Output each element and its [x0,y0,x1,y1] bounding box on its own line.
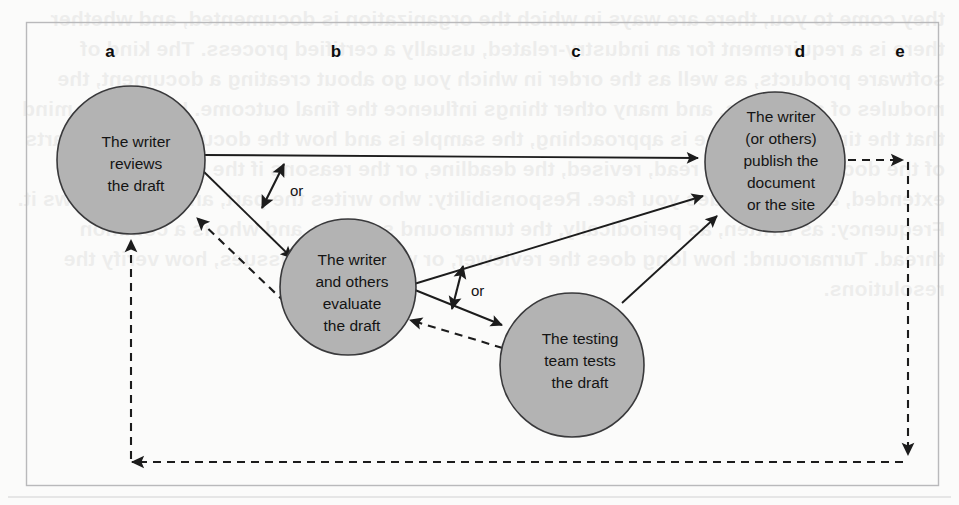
column-label-c: c [571,42,580,61]
column-label-b: b [331,42,341,61]
node-a-line-2: reviews [110,155,163,172]
column-label-a: a [105,42,115,61]
node-c-line-3: the draft [552,374,610,391]
node-testing-team-tests-draft[interactable]: The testing team tests the draft [500,293,644,437]
or-label-b-branch: or [471,282,484,299]
figure-page: they come to you, there are ways in whic… [0,0,959,505]
node-b-line-3: evaluate [323,295,382,312]
edge-a-to-d-publish [203,155,698,158]
node-writer-and-others-evaluate-draft[interactable]: The writer and others evaluate the draft [280,219,416,355]
node-b-line-2: and others [315,273,388,290]
node-d-line-4: document [747,174,816,191]
figure-frame [27,23,939,486]
node-a-line-1: The writer [102,133,171,150]
node-c-line-2: team tests [544,352,616,369]
column-label-d: d [795,42,805,61]
edge-c-to-d-publish [622,216,717,303]
or-label-a-branch: or [290,182,303,199]
process-flow-diagram: a b c d e The writer reviews the draft T… [0,0,959,505]
edge-b-to-c-test [415,290,502,325]
node-writer-or-others-publish[interactable]: The writer (or others) publish the docum… [705,92,845,232]
node-a-line-3: the draft [108,177,166,194]
column-label-e: e [895,42,904,61]
node-d-line-2: (or others) [745,130,817,147]
node-b-line-1: The writer [318,251,387,268]
node-writer-reviews-draft[interactable]: The writer reviews the draft [57,86,205,234]
node-d-line-5: or the site [747,196,815,213]
edge-a-branch-or-fork [262,164,284,208]
node-b-line-4: the draft [324,317,382,334]
edge-b-to-d-publish [414,196,703,284]
node-c-line-1: The testing [542,330,619,347]
node-d-line-3: publish the [744,152,819,169]
edge-a-to-b-evaluate [200,168,292,258]
node-d-line-1: The writer [747,108,816,125]
